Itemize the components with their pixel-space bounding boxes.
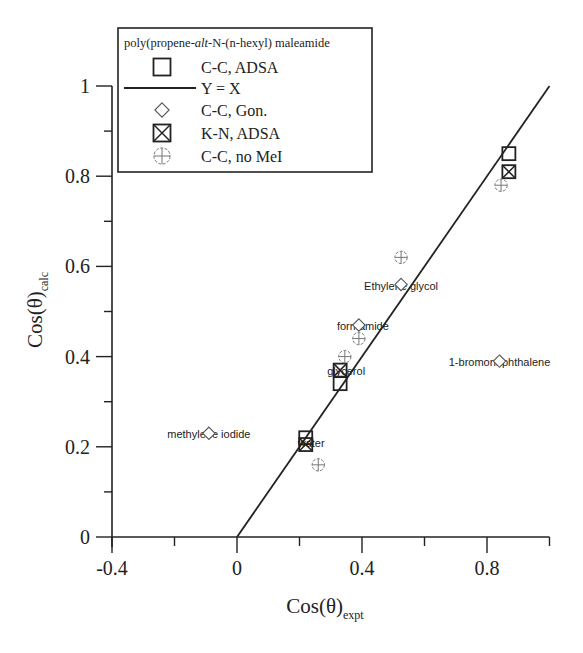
legend: poly(propene-alt-N-(n-hexyl) maleamideC-… xyxy=(118,28,372,172)
crossed-circle-marker-icon xyxy=(353,332,365,344)
square-marker-icon xyxy=(502,147,515,160)
crossed-circle-marker-icon xyxy=(312,459,324,471)
data-points xyxy=(203,147,516,471)
scatter-chart: -0.400.40.800.20.40.60.81 methylene iodi… xyxy=(0,0,583,653)
y-tick-label: 0.4 xyxy=(65,346,90,368)
legend-entry-label: K-N, ADSA xyxy=(201,125,281,142)
y-tick-label: 0.6 xyxy=(65,255,90,277)
y-tick-label: 1 xyxy=(80,75,90,97)
legend-entry-label: C-C, ADSA xyxy=(201,59,279,76)
y-axis-label: Cos(θ)calc xyxy=(23,272,51,348)
y-tick-label: 0.8 xyxy=(65,165,90,187)
crossed-circle-marker-icon xyxy=(339,350,351,362)
x-tick-label: 0 xyxy=(232,557,242,579)
liquid-annotations: methylene iodidewaterglycerolformamideEt… xyxy=(167,280,550,449)
crossed-square-marker-icon xyxy=(502,165,515,178)
y-tick-label: 0.2 xyxy=(65,436,90,458)
crossed-circle-marker-icon xyxy=(395,251,407,263)
legend-entry-label: Y = X xyxy=(201,80,241,97)
x-axis-label: Cos(θ)expt xyxy=(286,594,364,622)
legend-entry-label: C-C, no MeI xyxy=(201,148,282,165)
crossed-circle-marker-icon xyxy=(495,179,507,191)
x-tick-label: -0.4 xyxy=(96,557,128,579)
legend-title: poly(propene-alt-N-(n-hexyl) maleamide xyxy=(124,36,330,50)
x-tick-label: 0.8 xyxy=(475,557,500,579)
y-tick-label: 0 xyxy=(80,526,90,548)
legend-entry-label: C-C, Gon. xyxy=(201,102,267,119)
x-tick-label: 0.4 xyxy=(350,557,375,579)
